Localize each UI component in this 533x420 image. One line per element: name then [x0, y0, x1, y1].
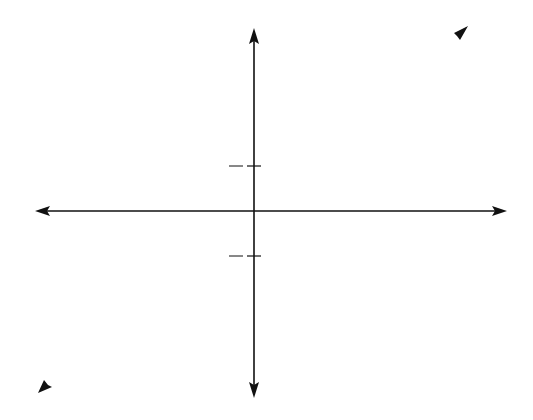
identity-line-bottom-arrow-icon	[38, 380, 52, 393]
graph-canvas	[0, 0, 533, 420]
identity-line-top-arrow-icon	[454, 26, 468, 40]
